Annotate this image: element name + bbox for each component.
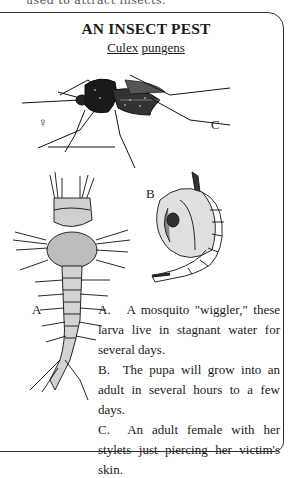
figure-label-a: A: [32, 302, 41, 318]
genus-name: Culex: [107, 40, 138, 55]
description-b: B. The pupa will grow into an adult in s…: [98, 360, 280, 420]
scientific-name: Culex pungens: [0, 40, 292, 56]
species-name: pungens: [141, 40, 184, 55]
female-symbol: ♀: [38, 115, 48, 131]
figure-label-b: B: [146, 186, 155, 202]
cropped-text-line: used to attract insects.: [26, 0, 166, 7]
description-list: A. A mosquito "wiggler," these larva liv…: [98, 300, 280, 478]
figure-label-c: C: [211, 117, 220, 133]
description-c: C. An adult female with her stylets just…: [98, 420, 280, 478]
panel-title: AN INSECT PEST: [0, 20, 292, 38]
pupa-illustration: [140, 170, 240, 290]
description-a: A. A mosquito "wiggler," these larva liv…: [98, 300, 280, 360]
